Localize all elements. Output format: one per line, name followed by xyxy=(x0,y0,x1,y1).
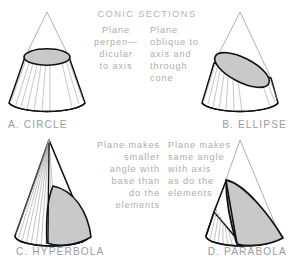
conic-sections-diagram: CONIC SECTIONS xyxy=(0,0,295,263)
ellipse-note-line-3: through xyxy=(150,61,187,71)
ellipse-note-line-1: oblique to xyxy=(150,37,199,47)
circle-note-line-0: Plane xyxy=(102,25,130,35)
panel-ellipse: Plane oblique to axis and through cone B… xyxy=(150,12,287,130)
ellipse-note: Plane oblique to axis and through cone xyxy=(150,25,199,83)
hyperbola-note-line-0: Plane makes xyxy=(97,140,160,150)
hyperbola-note-line-1: smaller xyxy=(124,152,160,162)
panel-parabola: Plane makes same angle with axis as do t… xyxy=(167,140,287,257)
parabola-note-line-4: elements xyxy=(168,188,212,198)
ellipse-note-line-4: cone xyxy=(150,73,174,83)
circle-note-line-3: to axis xyxy=(100,61,133,71)
panel-hyperbola: Plane makes smaller angle with base than… xyxy=(15,140,160,257)
circle-note-line-2: dicular xyxy=(99,49,132,59)
panel-circle: Plane perpen— dicular to axis A. CIRCLE xyxy=(8,12,138,130)
hyperbola-section-plane xyxy=(47,186,91,245)
hyperbola-note-line-4: do the xyxy=(129,188,160,198)
parabola-note-line-1: same angle xyxy=(168,152,225,162)
hyperbola-note-line-2: angle with xyxy=(110,164,160,174)
parabola-note-line-2: with axis xyxy=(167,164,211,174)
ellipse-note-line-0: Plane xyxy=(150,25,178,35)
circle-section-plane xyxy=(24,49,70,65)
ellipse-note-line-2: axis and xyxy=(150,49,191,59)
hyperbola-note-line-5: elements xyxy=(116,200,160,210)
parabola-caption: D. PARABOLA xyxy=(208,246,287,257)
hyperbola-caption: C. HYPERBOLA xyxy=(16,246,105,257)
hyperbola-note: Plane makes smaller angle with base than… xyxy=(97,140,160,210)
ellipse-caption: B. ELLIPSE xyxy=(222,119,287,130)
parabola-note-line-0: Plane makes xyxy=(168,140,231,150)
hyperbola-note-line-3: base than xyxy=(112,176,160,186)
circle-note-line-1: perpen— xyxy=(94,37,138,47)
circle-note: Plane perpen— dicular to axis xyxy=(94,25,138,71)
parabola-note: Plane makes same angle with axis as do t… xyxy=(167,140,231,198)
circle-caption: A. CIRCLE xyxy=(8,119,68,130)
diagram-title: CONIC SECTIONS xyxy=(98,8,197,19)
parabola-note-line-3: as do the xyxy=(168,176,214,186)
